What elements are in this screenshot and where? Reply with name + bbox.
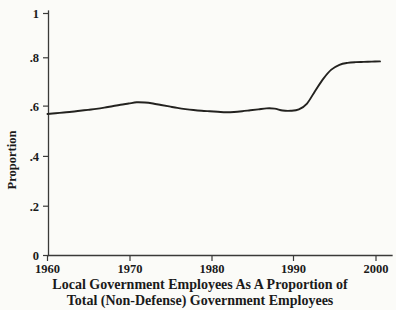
x-tick-label-1980: 1980 [200, 262, 225, 276]
x-tick-label-1960: 1960 [35, 262, 60, 276]
proportion-line-chart: 1 .8 .6 .4 .2 0 Proportion 1960 1970 198… [0, 0, 396, 310]
y-tick-label-0-4: .4 [30, 150, 40, 164]
chart-page: 1 .8 .6 .4 .2 0 Proportion 1960 1970 198… [0, 0, 396, 310]
caption-line-1: Local Government Employees As A Proporti… [52, 277, 348, 292]
y-tick-label-0-2: .2 [30, 200, 39, 214]
x-tick-label-1970: 1970 [118, 262, 143, 276]
caption-line-2: Total (Non-Defense) Government Employees [67, 293, 334, 309]
x-tick-label-1990: 1990 [281, 262, 306, 276]
y-axis-title: Proportion [5, 131, 19, 190]
y-tick-label-0-6: .6 [30, 100, 39, 114]
y-tick-label-0-8: .8 [30, 51, 39, 65]
x-tick-label-2000: 2000 [364, 262, 389, 276]
y-tick-label-0: 0 [33, 249, 39, 263]
y-tick-label-1: 1 [33, 7, 39, 21]
